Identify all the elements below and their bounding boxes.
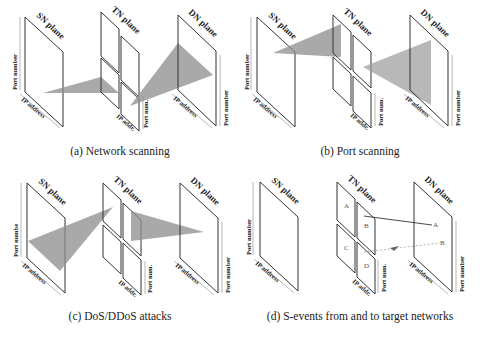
tn-plane-title: TN plane bbox=[342, 6, 375, 38]
tn-ip-label: IP addr. bbox=[117, 278, 139, 298]
tn-quadrant-d: D bbox=[364, 262, 369, 270]
caption-c: (c) DoS/DDoS attacks bbox=[0, 310, 240, 322]
sn-ip-label: IP address bbox=[20, 95, 47, 119]
caption-b: (b) Port scanning bbox=[240, 145, 480, 157]
diagram-network-scanning: SN plane Port number IP address TN plane… bbox=[0, 0, 240, 140]
tn-plane-b bbox=[121, 36, 139, 97]
dn-port-label: Port number bbox=[224, 257, 231, 293]
panel-s-events: SN plane Port number IP address A B C D … bbox=[240, 175, 480, 349]
caption-d: (d) S-events from and to target networks bbox=[240, 310, 480, 322]
tn-plane-b bbox=[353, 35, 371, 88]
panel-network-scanning: SN plane Port number IP address TN plane… bbox=[0, 0, 240, 174]
dn-port-label: Port number bbox=[458, 256, 465, 292]
diagram-dos-attacks: SN plane Port numbe IP address TN plane … bbox=[0, 175, 240, 315]
event-line-b-to-a bbox=[364, 216, 432, 225]
tn-quadrant-a: A bbox=[344, 202, 349, 210]
tn-plane-title: TN plane bbox=[112, 175, 145, 206]
caption-a: (a) Network scanning bbox=[0, 145, 240, 157]
dn-plane-title: DN plane bbox=[419, 7, 452, 39]
sn-ip-label: IP address bbox=[252, 95, 279, 119]
fan-shape bbox=[130, 43, 213, 106]
sn-plane-title: SN plane bbox=[267, 10, 299, 41]
tn-ip-label: IP addr. bbox=[349, 111, 371, 131]
tn-ip-label: IP addr. bbox=[351, 277, 373, 297]
sn-plane-title: SN plane bbox=[35, 10, 67, 41]
tn-plane-c bbox=[103, 225, 121, 274]
flow-shape bbox=[43, 77, 119, 93]
tn-plane-a bbox=[101, 12, 119, 73]
tn-port-label: Port num. bbox=[146, 264, 153, 293]
dn-plane-title: DN plane bbox=[423, 175, 456, 206]
converge-shape bbox=[28, 207, 113, 271]
tn-quadrant-b: B bbox=[364, 222, 369, 230]
dn-plane-title: DN plane bbox=[189, 175, 222, 207]
tn-port-label: Port num. bbox=[377, 97, 384, 126]
sn-port-label: Port number bbox=[245, 219, 252, 255]
sn-plane-title: SN plane bbox=[270, 175, 302, 206]
arrow-head bbox=[390, 246, 399, 251]
tn-port-label: Port num. bbox=[380, 263, 387, 292]
diagram-s-events: SN plane Port number IP address A B C D … bbox=[240, 175, 480, 315]
tn-plane-title: TN plane bbox=[110, 4, 143, 36]
dn-point-b: B bbox=[440, 239, 445, 247]
sn-plane-title: SN plane bbox=[37, 176, 69, 207]
sn-port-label: Port number bbox=[11, 54, 18, 90]
dn-port-label: Port number bbox=[222, 90, 229, 126]
diagram-port-scanning: SN plane Port number IP address TN plane… bbox=[240, 0, 480, 140]
panel-port-scanning: SN plane Port number IP address TN plane… bbox=[240, 0, 480, 174]
fan-shape bbox=[363, 40, 431, 105]
sn-port-label: Port numbe bbox=[12, 224, 19, 257]
dn-point-a: A bbox=[433, 221, 438, 229]
tn-ip-label: IP addr. bbox=[115, 112, 137, 132]
tn-plane-title: TN plane bbox=[346, 175, 379, 205]
dn-plane-title: DN plane bbox=[187, 7, 220, 39]
tn-quadrant-c: C bbox=[344, 244, 349, 252]
dn-port-label: Port number bbox=[454, 90, 461, 126]
tn-plane-c bbox=[333, 57, 351, 106]
sn-port-label: Port number bbox=[243, 54, 250, 90]
tn-port-label: Port num. bbox=[142, 99, 149, 128]
target-shape bbox=[131, 211, 204, 241]
panel-dos-attacks: SN plane Port numbe IP address TN plane … bbox=[0, 175, 240, 349]
